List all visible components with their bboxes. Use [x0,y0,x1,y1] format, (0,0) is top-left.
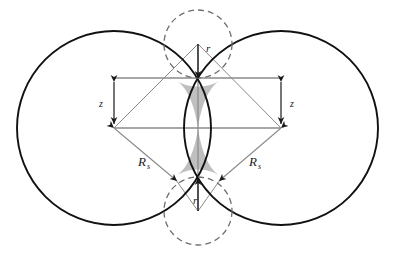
diagram-svg: r r z z R s R s [0,0,397,261]
label-z-left: z [98,98,103,109]
svg-text:s: s [258,162,261,171]
figure-canvas: r r z z R s R s [0,0,397,261]
svg-text:R: R [137,154,146,169]
label-z-right: z [289,98,294,109]
label-r-bottom: r [193,194,198,206]
label-Rs-right: R s [248,154,261,171]
svg-text:R: R [248,154,257,169]
svg-text:s: s [147,162,150,171]
label-r-top: r [206,42,211,54]
